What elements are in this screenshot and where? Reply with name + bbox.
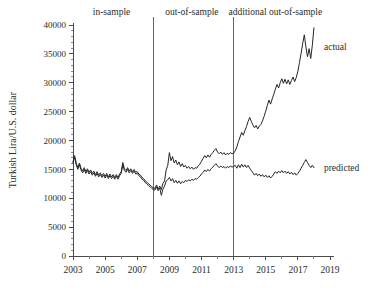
chart-figure: 0500010000150002000025000300003500040000…	[0, 0, 376, 293]
x-tick-label: 2009	[160, 265, 179, 275]
x-tick-label: 2017	[288, 265, 307, 275]
y-tick-label: 15000	[44, 165, 67, 175]
y-tick-label: 0	[62, 251, 67, 261]
y-tick-label: 20000	[44, 136, 67, 146]
region-annotations: in-sampleout-of-sampleadditional out-of-…	[93, 7, 322, 17]
series-label-predicted: predicted	[324, 163, 360, 173]
x-tick-label: 2013	[224, 265, 243, 275]
x-tick-labels: 200320052007200920112013201520172019	[64, 265, 340, 275]
region-label-out-of-sample: out-of-sample	[165, 7, 218, 17]
x-tick-label: 2019	[321, 265, 340, 275]
y-tick-label: 10000	[44, 193, 67, 203]
x-tick-label: 2007	[128, 265, 147, 275]
chart-background	[0, 0, 376, 293]
y-tick-label: 25000	[44, 107, 67, 117]
region-label-in-sample: in-sample	[93, 7, 130, 17]
y-tick-label: 35000	[44, 49, 67, 59]
x-tick-label: 2011	[192, 265, 211, 275]
series-label-actual: actual	[324, 42, 347, 52]
svg-text:Turkish Lira/U.S. dollar: Turkish Lira/U.S. dollar	[7, 91, 18, 188]
x-tick-label: 2003	[64, 265, 83, 275]
y-axis-title: Turkish Lira/U.S. dollar	[7, 91, 18, 188]
y-tick-label: 5000	[48, 222, 67, 232]
exchange-rate-line-chart: 0500010000150002000025000300003500040000…	[0, 0, 376, 293]
y-tick-label: 40000	[44, 20, 67, 30]
y-tick-label: 30000	[44, 78, 67, 88]
x-tick-label: 2005	[96, 265, 115, 275]
region-label-additional-out-of-sample: additional out-of-sample	[229, 7, 323, 17]
x-tick-label: 2015	[256, 265, 275, 275]
